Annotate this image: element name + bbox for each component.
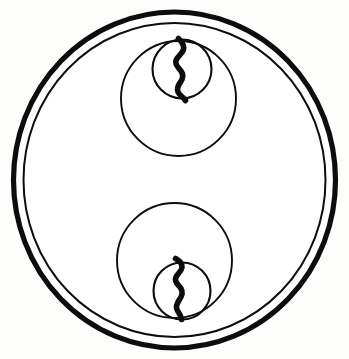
inner-boundary-circle — [24, 23, 326, 337]
figure-svg — [0, 0, 349, 359]
figure-container: Line drawing: a large double-walled circ… — [0, 0, 349, 359]
